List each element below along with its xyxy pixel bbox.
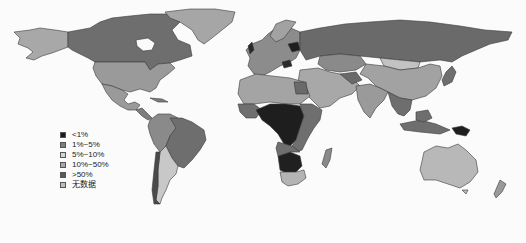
legend-label: >50%: [72, 170, 93, 179]
legend-item: <1%: [60, 130, 109, 140]
legend-label: <1%: [72, 130, 88, 139]
legend-item: 无数据: [60, 180, 109, 190]
region-papua: [452, 126, 470, 136]
legend-swatch: [60, 142, 66, 148]
legend-item: 5%~10%: [60, 150, 109, 160]
legend-label: 1%~5%: [72, 140, 100, 149]
legend-swatch: [60, 132, 66, 138]
region-tasmania: [462, 190, 468, 194]
region-madagascar: [322, 148, 332, 168]
region-borneo: [416, 110, 432, 122]
legend-swatch: [60, 162, 66, 168]
region-indonesia: [400, 120, 450, 134]
region-canada: [68, 14, 192, 70]
region-southern-africa: [278, 152, 302, 174]
legend-item: 1%~5%: [60, 140, 109, 150]
legend-item: 10%~50%: [60, 160, 109, 170]
map-figure: <1% 1%~5% 5%~10% 10%~50% >50% 无数据: [0, 0, 526, 243]
legend-label: 10%~50%: [72, 160, 109, 169]
legend-swatch: [60, 182, 66, 188]
region-central-america: [136, 108, 152, 120]
legend-swatch: [60, 152, 66, 158]
region-egypt: [294, 82, 308, 94]
region-new-zealand: [494, 180, 506, 198]
region-australia: [420, 144, 478, 188]
region-japan: [442, 66, 456, 86]
region-caribbean: [150, 98, 168, 102]
legend-swatch: [60, 172, 66, 178]
legend-item: >50%: [60, 170, 109, 180]
region-south-africa: [280, 170, 306, 186]
region-alaska: [14, 28, 68, 60]
region-kazakhstan: [318, 54, 366, 72]
map-legend: <1% 1%~5% 5%~10% 10%~50% >50% 无数据: [60, 130, 109, 190]
legend-label: 无数据: [72, 180, 96, 189]
legend-label: 5%~10%: [72, 150, 104, 159]
world-map: [0, 0, 526, 243]
